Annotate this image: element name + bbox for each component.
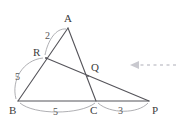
construction-lines bbox=[18, 28, 149, 101]
measure-label-C-P: 3 bbox=[118, 106, 123, 116]
vertex-dot-R bbox=[45, 57, 47, 59]
geometry-canvas bbox=[0, 0, 176, 132]
pointer-arrow-head bbox=[130, 61, 139, 69]
geometry-figure: A R Q B C P 2 5 5 3 bbox=[0, 0, 176, 132]
arc-C-P bbox=[98, 103, 148, 111]
vertex-label-Q: Q bbox=[91, 62, 99, 73]
measure-label-B-C: 5 bbox=[53, 107, 58, 117]
vertex-label-C: C bbox=[90, 105, 97, 116]
measurement-arcs bbox=[15, 29, 148, 112]
vertex-label-P: P bbox=[152, 105, 158, 116]
measure-label-R-B: 5 bbox=[15, 72, 20, 82]
vertex-label-B: B bbox=[9, 105, 16, 116]
measure-label-A-R: 2 bbox=[45, 31, 50, 41]
vertex-label-R: R bbox=[33, 47, 40, 58]
vertex-dot-Q bbox=[87, 75, 89, 77]
vertex-label-A: A bbox=[64, 13, 72, 24]
pointer-arrow bbox=[130, 61, 176, 69]
